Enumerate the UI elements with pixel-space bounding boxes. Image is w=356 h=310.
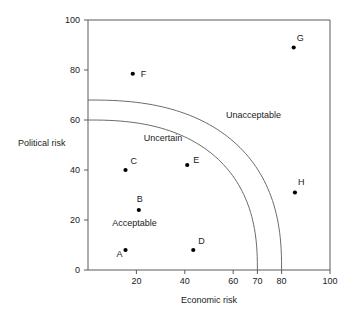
data-point-f	[131, 72, 135, 76]
boundary-curves	[88, 100, 282, 270]
region-label-unacceptable: Unacceptable	[226, 111, 281, 120]
data-point-e	[185, 163, 189, 167]
point-label-h: H	[298, 177, 305, 186]
data-point-g	[292, 45, 296, 49]
risk-matrix-chart: 0204060801002040607080100Political riskE…	[0, 0, 356, 310]
x-axis-title: Economic risk	[181, 296, 237, 305]
x-tick-label-20: 20	[131, 277, 141, 286]
chart-canvas	[0, 0, 356, 310]
y-tick-label-0: 0	[75, 266, 80, 275]
x-tick-label-100: 100	[322, 277, 337, 286]
data-point-c	[123, 168, 127, 172]
x-tick-label-70: 70	[252, 277, 262, 286]
x-tick-label-60: 60	[228, 277, 238, 286]
point-label-a: A	[117, 250, 123, 259]
x-axis-ticks	[136, 270, 330, 274]
point-label-e: E	[193, 156, 199, 165]
point-label-b: B	[137, 195, 143, 204]
y-tick-label-20: 20	[70, 216, 80, 225]
data-point-d	[191, 248, 195, 252]
y-tick-label-100: 100	[65, 16, 80, 25]
x-tick-label-40: 40	[180, 277, 190, 286]
y-tick-label-80: 80	[70, 66, 80, 75]
y-axis-ticks	[84, 20, 88, 270]
x-tick-label-80: 80	[277, 277, 287, 286]
data-point-h	[293, 190, 297, 194]
region-label-acceptable: Acceptable	[112, 218, 157, 227]
y-tick-label-40: 40	[70, 166, 80, 175]
point-label-g: G	[297, 33, 304, 42]
y-axis-title: Political risk	[18, 139, 66, 148]
point-label-d: D	[198, 237, 205, 246]
lower-boundary	[88, 120, 257, 270]
upper-boundary	[88, 100, 282, 270]
point-label-c: C	[131, 157, 138, 166]
data-point-a	[123, 248, 127, 252]
axes-frame	[88, 20, 330, 270]
y-tick-label-60: 60	[70, 116, 80, 125]
point-label-f: F	[141, 69, 147, 78]
data-point-b	[137, 208, 141, 212]
region-label-uncertain: Uncertain	[144, 133, 183, 142]
